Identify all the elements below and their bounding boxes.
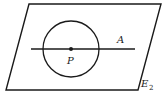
point-label: P [66, 55, 74, 66]
plane-label-subscript: 2 [149, 84, 153, 92]
point-p [69, 47, 73, 51]
plane-label: E [140, 78, 149, 89]
diagram-canvas: A P E 2 [0, 0, 164, 98]
plane-parallelogram [6, 4, 161, 90]
line-label: A [116, 34, 124, 45]
